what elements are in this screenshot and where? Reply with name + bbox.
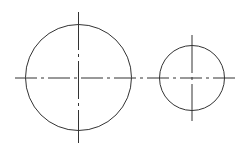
technical-drawing <box>0 0 248 152</box>
